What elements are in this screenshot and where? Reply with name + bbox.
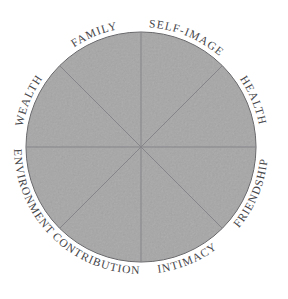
wheel-of-life-page: WEALTH FAMILY SELF-IMAGE HEALTH ENVIRONM… <box>0 0 288 299</box>
wheel-spokes <box>26 32 256 262</box>
wheel-of-life-diagram: WEALTH FAMILY SELF-IMAGE HEALTH ENVIRONM… <box>0 0 288 299</box>
